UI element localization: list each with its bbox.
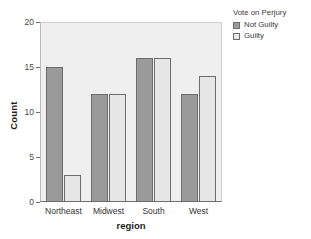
- y-axis-tick-label: 0: [4, 198, 34, 207]
- x-axis-tick-labels: NortheastMidwestSouthWest: [41, 206, 221, 220]
- y-axis-tick-label: 5: [4, 153, 34, 162]
- bar-group: [131, 22, 176, 202]
- bar[interactable]: [181, 94, 198, 202]
- legend-item-label: Guilty: [244, 31, 264, 41]
- legend: Vote on Perjury Not GuiltyGuilty: [233, 8, 307, 41]
- bar-chart: Count 05101520 NortheastMidwestSouthWest…: [0, 0, 311, 239]
- bar[interactable]: [199, 76, 216, 202]
- y-axis-tick-mark: [36, 112, 40, 113]
- legend-item-label: Not Guilty: [244, 20, 278, 30]
- bar-group: [176, 22, 221, 202]
- bar[interactable]: [154, 58, 171, 202]
- legend-items: Not GuiltyGuilty: [233, 20, 307, 41]
- y-axis-tick-mark: [36, 67, 40, 68]
- y-axis-tick-label: 10: [4, 108, 34, 117]
- bar[interactable]: [136, 58, 153, 202]
- y-axis: Count 05101520: [0, 14, 40, 214]
- legend-swatch-icon: [233, 22, 240, 29]
- bar-group: [41, 22, 86, 202]
- y-axis-tick-mark: [36, 157, 40, 158]
- bar[interactable]: [109, 94, 126, 202]
- bar[interactable]: [46, 67, 63, 202]
- bar[interactable]: [91, 94, 108, 202]
- y-axis-tick-label: 15: [4, 63, 34, 72]
- y-axis-tick-label: 20: [4, 18, 34, 27]
- bar-group: [86, 22, 131, 202]
- x-axis-tick-label: Midwest: [86, 206, 131, 216]
- y-axis-tick-mark: [36, 22, 40, 23]
- legend-item[interactable]: Not Guilty: [233, 20, 307, 30]
- y-axis-tick-mark: [36, 202, 40, 203]
- legend-item[interactable]: Guilty: [233, 31, 307, 41]
- bars-layer: [41, 22, 221, 202]
- legend-title: Vote on Perjury: [233, 8, 307, 18]
- legend-swatch-icon: [233, 33, 240, 40]
- bar[interactable]: [64, 175, 81, 202]
- x-axis-tick-label: South: [131, 206, 176, 216]
- x-axis-title: region: [41, 220, 221, 231]
- x-axis-tick-label: Northeast: [41, 206, 86, 216]
- x-axis-tick-label: West: [176, 206, 221, 216]
